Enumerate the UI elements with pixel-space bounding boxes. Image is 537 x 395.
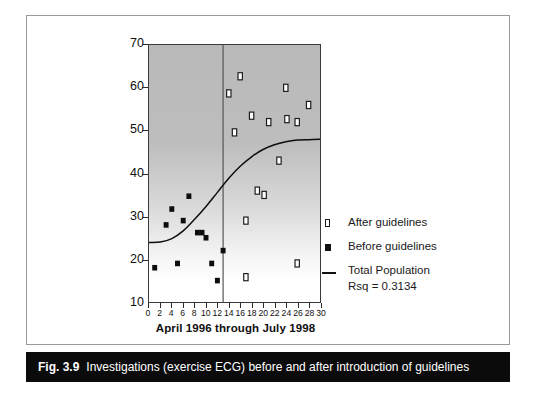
data-point-after-guidelines <box>284 84 288 91</box>
data-point-before-guidelines <box>175 261 180 267</box>
y-tick-label: 60 <box>118 80 144 93</box>
scatter-plot-svg <box>149 45 320 302</box>
data-point-after-guidelines <box>244 217 248 224</box>
y-tick-label: 70 <box>118 37 144 50</box>
data-point-before-guidelines <box>200 230 205 236</box>
legend-item-after-guidelines: After guidelines <box>322 214 497 238</box>
data-point-before-guidelines <box>169 206 174 212</box>
data-point-before-guidelines <box>152 265 157 271</box>
legend-label-rsq: Rsq = 0.3134 <box>348 278 417 295</box>
y-axis-ticks: 10203040506070 <box>118 0 144 395</box>
data-point-before-guidelines <box>195 230 200 236</box>
plot-area <box>148 44 321 303</box>
figure-caption-bar: Fig. 3.9 Investigations (exercise ECG) b… <box>26 352 510 382</box>
data-point-before-guidelines <box>209 261 214 267</box>
data-point-after-guidelines <box>277 157 281 164</box>
data-point-after-guidelines <box>255 187 259 194</box>
data-point-before-guidelines <box>215 278 220 284</box>
data-point-before-guidelines <box>186 193 191 199</box>
legend-label-after-guidelines: After guidelines <box>348 214 427 231</box>
legend-label-total-population: Total Population <box>348 262 430 279</box>
data-point-after-guidelines <box>295 119 299 126</box>
figure-container: Investigations: Exercise ECG 10203040506… <box>0 0 537 395</box>
data-point-after-guidelines <box>295 260 299 267</box>
data-point-after-guidelines <box>267 119 271 126</box>
data-point-after-guidelines <box>306 101 310 108</box>
data-point-after-guidelines <box>285 116 289 123</box>
y-tick-label: 20 <box>118 253 144 266</box>
legend-item-before-guidelines: Before guidelines <box>322 238 497 262</box>
data-point-before-guidelines <box>164 222 169 228</box>
figure-caption-text: Investigations (exercise ECG) before and… <box>86 360 469 374</box>
y-tick-label: 50 <box>118 123 144 136</box>
data-point-before-guidelines <box>221 248 226 254</box>
data-point-before-guidelines <box>204 235 209 241</box>
data-point-after-guidelines <box>227 90 231 97</box>
data-point-after-guidelines <box>262 191 266 198</box>
chart-legend: After guidelines Before guidelines Total… <box>322 214 497 296</box>
data-point-before-guidelines <box>181 218 186 224</box>
x-axis-label: April 1996 through July 1998 <box>128 322 343 334</box>
x-tick-label: 30 <box>313 309 329 318</box>
data-point-after-guidelines <box>244 274 248 281</box>
y-tick-label: 10 <box>118 296 144 309</box>
total-population-fit-curve <box>149 139 320 242</box>
legend-label-before-guidelines: Before guidelines <box>348 238 437 255</box>
open-square-marker-icon <box>322 218 336 230</box>
y-tick-label: 40 <box>118 167 144 180</box>
data-point-after-guidelines <box>249 112 253 119</box>
y-tick-label: 30 <box>118 210 144 223</box>
data-point-after-guidelines <box>238 73 242 80</box>
filled-square-marker-icon <box>322 242 336 254</box>
data-point-after-guidelines <box>232 129 236 136</box>
line-marker-icon <box>322 266 336 278</box>
figure-number: Fig. 3.9 <box>38 360 79 374</box>
legend-item-total-population: Total Population Rsq = 0.3134 <box>322 262 497 296</box>
